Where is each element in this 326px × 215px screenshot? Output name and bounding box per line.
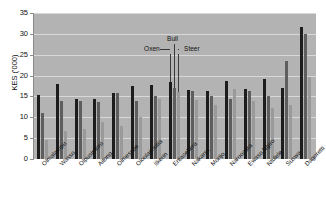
bar-group xyxy=(244,13,256,159)
bar-group xyxy=(93,13,105,159)
bar-oxen xyxy=(112,93,115,159)
leader-connector-oxen xyxy=(160,49,170,50)
bar-steer xyxy=(233,89,236,159)
bar-bull xyxy=(79,101,82,159)
annotation-oxen: Oxen xyxy=(144,45,160,52)
bar-bull xyxy=(116,93,119,159)
bar-group xyxy=(56,13,68,159)
bar-steer xyxy=(195,100,198,159)
bar-steer xyxy=(252,101,255,159)
bar-group xyxy=(206,13,218,159)
bar-oxen xyxy=(75,99,78,159)
bar-group xyxy=(150,13,162,159)
bar-group xyxy=(225,13,237,159)
y-tick-label: 5 xyxy=(0,134,28,142)
bar-group xyxy=(131,13,143,159)
bar-bull xyxy=(173,88,176,159)
bar-oxen xyxy=(225,81,228,159)
annotation-bull: Bull xyxy=(167,35,178,42)
y-tick-label: 10 xyxy=(0,113,28,121)
y-tick-label: 35 xyxy=(0,9,28,17)
leader-connector-steer xyxy=(178,49,179,50)
y-tick-label: 25 xyxy=(0,51,28,59)
bar-oxen xyxy=(300,27,303,159)
bar-steer xyxy=(214,105,217,159)
bar-steer xyxy=(177,92,180,159)
bar-bull xyxy=(229,99,232,159)
bar-oxen xyxy=(169,82,172,159)
bar-group xyxy=(187,13,199,159)
bar-group xyxy=(281,13,293,159)
bar-oxen xyxy=(281,88,284,159)
bar-oxen xyxy=(37,95,40,159)
bar-group xyxy=(263,13,275,159)
bar-steer xyxy=(271,108,274,159)
bar-group xyxy=(300,13,312,159)
bar-group xyxy=(75,13,87,159)
bar-group xyxy=(37,13,49,159)
leader-line-steer xyxy=(178,54,179,92)
annotation-steer: Steer xyxy=(184,45,200,52)
bar-group xyxy=(112,13,124,159)
leader-line-oxen xyxy=(170,54,171,82)
bar-bull xyxy=(285,61,288,159)
plot-area: OxenBullSteer xyxy=(34,13,316,159)
bar-steer xyxy=(289,105,292,159)
y-tick-label: 20 xyxy=(0,72,28,80)
y-tick-label: 30 xyxy=(0,30,28,38)
bar-steer xyxy=(158,99,161,159)
bar-bull xyxy=(210,96,213,159)
x-axis-tick-labels: OlmalampuWassoOlpusimoroAitongOlmesutieO… xyxy=(0,160,325,215)
bar-bull xyxy=(304,34,307,159)
bar-bull xyxy=(41,113,44,159)
y-tick-label: 15 xyxy=(0,92,28,100)
leader-line-bull xyxy=(174,44,175,88)
bar-steer xyxy=(308,77,311,159)
